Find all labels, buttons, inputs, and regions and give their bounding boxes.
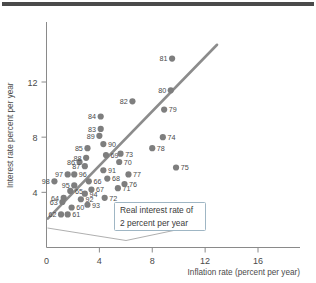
- data-point-marker: [82, 191, 88, 197]
- data-point-label: 65: [75, 187, 83, 196]
- data-point-marker: [103, 152, 109, 158]
- data-point-marker: [96, 133, 102, 139]
- data-point-label: 83: [88, 125, 96, 134]
- data-point: 63: [50, 198, 66, 207]
- data-point-marker: [88, 186, 94, 192]
- data-points: 9897969564636261606592939486858887666789…: [42, 54, 189, 219]
- data-point-label: 76: [129, 180, 137, 189]
- data-point-marker: [84, 202, 90, 208]
- data-point-marker: [59, 199, 65, 205]
- data-point-marker: [100, 141, 106, 147]
- data-point-label: 75: [181, 163, 189, 172]
- data-point: 77: [125, 170, 141, 179]
- data-point: 84: [88, 112, 104, 121]
- data-point-marker: [84, 145, 90, 151]
- data-point-marker: [98, 113, 104, 119]
- callout-line-2: 2 percent per year: [120, 218, 188, 228]
- data-point-marker: [58, 211, 64, 217]
- data-point-marker: [98, 126, 104, 132]
- data-point: 90: [100, 140, 116, 149]
- data-point: 82: [120, 97, 136, 106]
- data-point-marker: [168, 87, 174, 93]
- data-point-label: 60: [76, 203, 84, 212]
- data-point-label: 87: [72, 162, 80, 171]
- data-point: 68: [104, 174, 120, 183]
- data-point-marker: [86, 178, 92, 184]
- data-point-marker: [115, 185, 121, 191]
- data-point-marker: [117, 151, 123, 157]
- data-point: 93: [84, 201, 100, 210]
- data-point: 75: [173, 163, 189, 172]
- x-axis-ticks: 0481216: [44, 248, 263, 266]
- data-point-marker: [83, 155, 89, 161]
- data-point-label: 63: [50, 198, 58, 207]
- data-point-label: 96: [79, 170, 87, 179]
- y-tick-label: 12: [27, 78, 37, 88]
- data-point-label: 85: [75, 144, 83, 153]
- data-point-label: 98: [42, 177, 50, 186]
- data-point: 81: [159, 54, 175, 63]
- data-point-marker: [100, 167, 106, 173]
- data-point-marker: [129, 98, 135, 104]
- data-point-marker: [69, 204, 75, 210]
- data-point: 80: [158, 86, 174, 95]
- x-tick-label: 16: [253, 256, 263, 266]
- data-point: 60: [69, 203, 85, 212]
- real-interest-rate-2-percent-line: [48, 45, 217, 219]
- data-point-marker: [78, 196, 84, 202]
- y-axis-title: Interest rate percent per year: [6, 82, 15, 188]
- data-point-label: 62: [48, 210, 56, 219]
- x-tick-label: 4: [97, 256, 102, 266]
- data-point-label: 82: [120, 97, 128, 106]
- x-axis-title: Inflation rate (percent per year): [188, 268, 301, 277]
- data-point-marker: [125, 171, 131, 177]
- y-tick-label: 8: [32, 133, 37, 143]
- x-tick-label: 12: [200, 256, 210, 266]
- data-point-marker: [71, 171, 77, 177]
- data-point-label: 78: [157, 144, 165, 153]
- data-point-label: 90: [108, 140, 116, 149]
- data-point-marker: [173, 164, 179, 170]
- data-point-marker: [65, 211, 71, 217]
- data-point-label: 93: [92, 201, 100, 210]
- data-point-label: 74: [167, 133, 175, 142]
- data-point-label: 84: [88, 112, 96, 121]
- data-point: 97: [55, 170, 71, 179]
- x-tick-label: 0: [44, 256, 49, 266]
- data-point-marker: [82, 163, 88, 169]
- data-point-marker: [67, 188, 73, 194]
- data-point-marker: [102, 195, 108, 201]
- y-tick-label: 4: [32, 188, 37, 198]
- data-point-label: 68: [112, 174, 120, 183]
- data-point-label: 77: [133, 170, 141, 179]
- data-point: 62: [48, 210, 64, 219]
- data-point: 83: [88, 125, 104, 134]
- x-tick-label: 8: [150, 256, 155, 266]
- data-point-label: 80: [158, 86, 166, 95]
- data-point-label: 72: [109, 194, 117, 203]
- data-point: 70: [116, 158, 132, 167]
- data-point-label: 69: [111, 151, 119, 160]
- data-point-label: 81: [159, 54, 167, 63]
- data-point-marker: [116, 159, 122, 165]
- callout-line-1: Real interest rate of: [120, 205, 194, 215]
- scatter-chart: 4812 0481216 Interest rate percent per y…: [0, 0, 316, 283]
- data-point-label: 79: [169, 105, 177, 114]
- data-point-label: 70: [124, 158, 132, 167]
- figure-container: 4812 0481216 Interest rate percent per y…: [0, 0, 316, 283]
- data-point: 78: [149, 144, 165, 153]
- data-point-marker: [65, 171, 71, 177]
- data-point-label: 67: [96, 185, 104, 194]
- data-point: 96: [71, 170, 87, 179]
- decorative-top-rule: [2, 2, 314, 6]
- data-point-marker: [169, 55, 175, 61]
- data-point-marker: [160, 134, 166, 140]
- data-point-marker: [121, 181, 127, 187]
- data-point-marker: [149, 145, 155, 151]
- data-point: 85: [75, 144, 91, 153]
- data-point-marker: [161, 106, 167, 112]
- data-point: 74: [160, 133, 176, 142]
- data-point-marker: [104, 175, 110, 181]
- data-point: 79: [161, 105, 177, 114]
- data-point: 72: [102, 194, 118, 203]
